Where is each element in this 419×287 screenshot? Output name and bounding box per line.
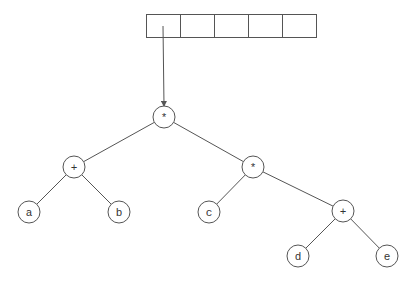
tree-edge — [217, 175, 246, 204]
tree-edge — [351, 219, 380, 248]
tree-edge — [306, 219, 335, 248]
tree-edge — [174, 122, 244, 161]
node-label: + — [71, 162, 78, 174]
array-cell — [249, 15, 283, 38]
tree-edge — [37, 175, 66, 204]
array-cell — [215, 15, 249, 38]
array-cell — [283, 15, 317, 38]
node-label: c — [206, 207, 213, 219]
node-label: * — [161, 112, 168, 124]
node-label: b — [116, 207, 123, 219]
array-cell — [181, 15, 215, 38]
tree-edge — [82, 175, 111, 204]
node-label: * — [250, 162, 257, 174]
diagram-svg: *+*abc+de — [0, 0, 419, 287]
node-label: e — [384, 251, 391, 263]
tree-edge — [84, 122, 155, 161]
node-label: d — [295, 251, 302, 263]
node-label: + — [340, 206, 347, 218]
expression-tree-diagram: *+*abc+de — [0, 0, 419, 287]
tree-edge — [263, 172, 333, 206]
node-label: a — [26, 207, 33, 219]
